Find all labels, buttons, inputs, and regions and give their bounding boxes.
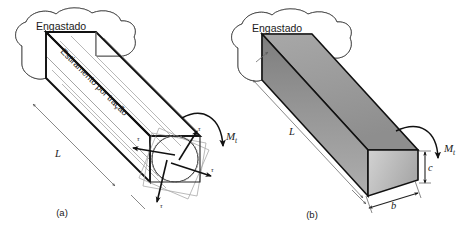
length-tick-a bbox=[131, 195, 145, 209]
panel-a: Engastado Estira bbox=[16, 8, 238, 218]
moment-subscript-b: t bbox=[453, 148, 456, 157]
stretch-label-group-a: Estiramento por tração bbox=[59, 46, 130, 117]
wall-label-b: Engastado bbox=[252, 22, 302, 34]
stretch-label-a: Estiramento por tração bbox=[59, 46, 130, 117]
width-label-b: b bbox=[391, 200, 396, 211]
moment-subscript-a: t bbox=[235, 136, 238, 145]
shear-label-a-2: τ bbox=[137, 135, 140, 143]
length-label-b: L bbox=[288, 126, 295, 137]
figure-canvas: Engastado Estira bbox=[0, 0, 476, 228]
torsion-figure: Engastado Estira bbox=[0, 0, 476, 228]
wall-label-a: Engastado bbox=[36, 20, 86, 32]
shear-label-a-1: τ bbox=[198, 125, 201, 133]
caption-b: (b) bbox=[306, 209, 318, 220]
length-label-a: L bbox=[54, 148, 61, 159]
panel-b: Engastado L bbox=[232, 9, 456, 220]
shear-label-a-3: τ bbox=[211, 166, 214, 174]
height-dimension-b: c bbox=[419, 151, 433, 183]
bar-end-face-b bbox=[368, 150, 418, 196]
caption-a: (a) bbox=[56, 207, 68, 218]
length-dimension-a: L bbox=[33, 104, 115, 186]
height-label-b: c bbox=[428, 162, 433, 173]
shear-label-a-4: τ bbox=[160, 202, 163, 210]
